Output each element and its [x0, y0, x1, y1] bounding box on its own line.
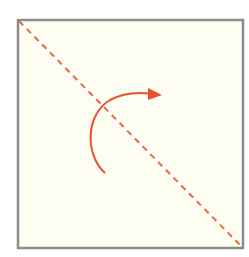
diagram-canvas — [0, 0, 249, 257]
